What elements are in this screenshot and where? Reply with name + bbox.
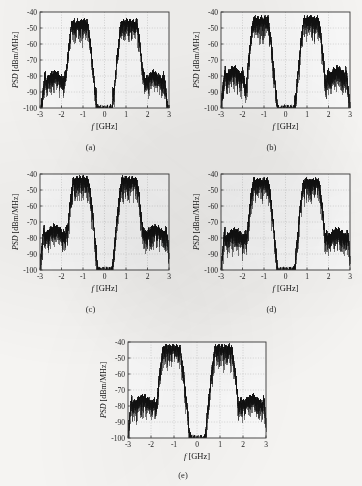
xtick-label: -1: [171, 440, 177, 449]
xtick-label: 1: [218, 440, 222, 449]
psd-figure: -3-2-10123-40-50-60-70-80-90-100f [GHz]P…: [0, 0, 362, 486]
y-axis-label: PSD [dBm/MHz]: [192, 194, 201, 252]
panel-label-d: (d): [181, 304, 362, 314]
xtick-label: 3: [167, 110, 171, 119]
xtick-label: -3: [37, 110, 43, 119]
y-axis-label: PSD [dBm/MHz]: [11, 194, 20, 252]
psd-plot-svg-e: -3-2-10123-40-50-60-70-80-90-100f [GHz]P…: [88, 332, 278, 466]
xtick-label: 0: [284, 110, 288, 119]
xtick-label: -2: [58, 272, 64, 281]
ytick-label: -100: [204, 266, 218, 275]
ytick-label: -60: [208, 202, 218, 211]
psd-panel-a: -3-2-10123-40-50-60-70-80-90-100f [GHz]P…: [0, 2, 181, 136]
ytick-label: -90: [208, 250, 218, 259]
ytick-label: -40: [208, 8, 218, 17]
x-axis-label: f [GHz]: [184, 451, 210, 461]
panel-label-e: (e): [88, 470, 278, 480]
ytick-label: -100: [23, 266, 37, 275]
ytick-label: -40: [27, 8, 37, 17]
ytick-label: -70: [208, 56, 218, 65]
xtick-label: -3: [218, 272, 224, 281]
ytick-label: -70: [115, 386, 125, 395]
xtick-label: -2: [239, 272, 245, 281]
x-axis-label: f [GHz]: [91, 283, 117, 293]
xtick-label: 3: [348, 272, 352, 281]
xtick-label: 0: [284, 272, 288, 281]
ytick-label: -90: [208, 88, 218, 97]
ytick-label: -50: [208, 186, 218, 195]
ytick-label: -50: [27, 186, 37, 195]
psd-plot-svg-c: -3-2-10123-40-50-60-70-80-90-100f [GHz]P…: [0, 164, 181, 298]
ytick-label: -70: [208, 218, 218, 227]
xtick-label: 3: [348, 110, 352, 119]
ytick-label: -50: [208, 24, 218, 33]
ytick-label: -80: [27, 72, 37, 81]
ytick-label: -60: [27, 40, 37, 49]
ytick-label: -90: [115, 418, 125, 427]
xtick-label: 0: [103, 272, 107, 281]
xtick-label: 3: [264, 440, 268, 449]
xtick-label: 0: [195, 440, 199, 449]
ytick-label: -70: [27, 56, 37, 65]
ytick-label: -100: [204, 104, 218, 113]
xtick-label: -1: [261, 110, 267, 119]
ytick-label: -60: [27, 202, 37, 211]
xtick-label: -1: [80, 110, 86, 119]
xtick-label: -2: [239, 110, 245, 119]
xtick-label: 0: [103, 110, 107, 119]
ytick-label: -40: [208, 170, 218, 179]
ytick-label: -40: [115, 338, 125, 347]
ytick-label: -100: [23, 104, 37, 113]
xtick-label: 1: [305, 110, 309, 119]
ytick-label: -80: [27, 234, 37, 243]
ytick-label: -60: [208, 40, 218, 49]
psd-panel-e: -3-2-10123-40-50-60-70-80-90-100f [GHz]P…: [88, 332, 278, 466]
xtick-label: 2: [241, 440, 245, 449]
xtick-label: -2: [148, 440, 154, 449]
psd-plot-svg-d: -3-2-10123-40-50-60-70-80-90-100f [GHz]P…: [181, 164, 362, 298]
y-axis-label: PSD [dBm/MHz]: [11, 32, 20, 90]
panel-label-c: (c): [0, 304, 181, 314]
xtick-label: 1: [124, 272, 128, 281]
ytick-label: -90: [27, 250, 37, 259]
ytick-label: -40: [27, 170, 37, 179]
psd-panel-b: -3-2-10123-40-50-60-70-80-90-100f [GHz]P…: [181, 2, 362, 136]
psd-panel-c: -3-2-10123-40-50-60-70-80-90-100f [GHz]P…: [0, 164, 181, 298]
ytick-label: -90: [27, 88, 37, 97]
xtick-label: 2: [327, 272, 331, 281]
xtick-label: -1: [80, 272, 86, 281]
xtick-label: -3: [218, 110, 224, 119]
ytick-label: -100: [111, 434, 125, 443]
ytick-label: -60: [115, 370, 125, 379]
ytick-label: -80: [208, 72, 218, 81]
ytick-label: -50: [27, 24, 37, 33]
y-axis-label: PSD [dBm/MHz]: [192, 32, 201, 90]
xtick-label: 2: [146, 272, 150, 281]
xtick-label: 2: [327, 110, 331, 119]
xtick-label: 3: [167, 272, 171, 281]
x-axis-label: f [GHz]: [91, 121, 117, 131]
xtick-label: 1: [305, 272, 309, 281]
y-axis-label: PSD [dBm/MHz]: [99, 362, 108, 420]
xtick-label: -1: [261, 272, 267, 281]
xtick-label: -3: [37, 272, 43, 281]
xtick-label: -2: [58, 110, 64, 119]
psd-plot-svg-b: -3-2-10123-40-50-60-70-80-90-100f [GHz]P…: [181, 2, 362, 136]
panel-label-a: (a): [0, 142, 181, 152]
ytick-label: -70: [27, 218, 37, 227]
xtick-label: 2: [146, 110, 150, 119]
ytick-label: -80: [115, 402, 125, 411]
psd-plot-svg-a: -3-2-10123-40-50-60-70-80-90-100f [GHz]P…: [0, 2, 181, 136]
ytick-label: -50: [115, 354, 125, 363]
panel-label-b: (b): [181, 142, 362, 152]
x-axis-label: f [GHz]: [272, 121, 298, 131]
x-axis-label: f [GHz]: [272, 283, 298, 293]
ytick-label: -80: [208, 234, 218, 243]
xtick-label: 1: [124, 110, 128, 119]
psd-panel-d: -3-2-10123-40-50-60-70-80-90-100f [GHz]P…: [181, 164, 362, 298]
xtick-label: -3: [125, 440, 131, 449]
